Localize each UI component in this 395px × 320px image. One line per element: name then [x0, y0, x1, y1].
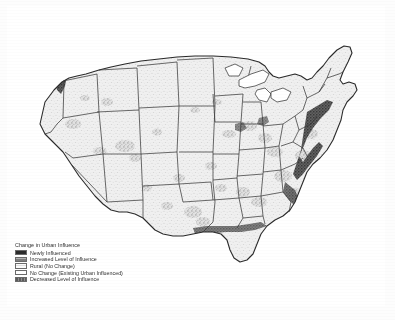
legend-label-newly-influenced: Newly Influenced — [30, 250, 71, 256]
legend-label-no-change-existing: No Change (Existing Urban Influenced) — [30, 270, 123, 276]
legend-swatch-newly-influenced — [15, 250, 27, 255]
legend-item-decreased-level[interactable]: Decreased Level of Influence — [15, 276, 155, 282]
legend-label-increased-level: Increased Level of Influence — [30, 256, 97, 262]
legend-item-rural-no-change[interactable]: Rural (No Change) — [15, 263, 155, 269]
legend-label-decreased-level: Decreased Level of Influence — [30, 276, 99, 282]
map-legend: Change in Urban Influence Newly Influenc… — [15, 242, 155, 283]
legend-swatch-increased-level — [15, 257, 27, 262]
legend-item-newly-influenced[interactable]: Newly Influenced — [15, 250, 155, 256]
map-figure-page: Change in Urban Influence Newly Influenc… — [0, 0, 395, 320]
legend-swatch-no-change-existing — [15, 270, 27, 275]
legend-item-no-change-existing[interactable]: No Change (Existing Urban Influenced) — [15, 270, 155, 276]
legend-title: Change in Urban Influence — [15, 242, 155, 248]
legend-swatch-rural-no-change — [15, 263, 27, 268]
legend-item-increased-level[interactable]: Increased Level of Influence — [15, 256, 155, 262]
legend-label-rural-no-change: Rural (No Change) — [30, 263, 75, 269]
legend-swatch-decreased-level — [15, 277, 27, 282]
